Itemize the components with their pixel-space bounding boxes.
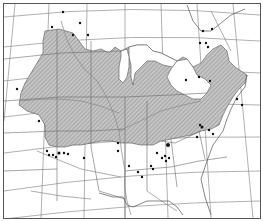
distribution-map: [3, 3, 261, 219]
map-canvas: [4, 4, 260, 218]
